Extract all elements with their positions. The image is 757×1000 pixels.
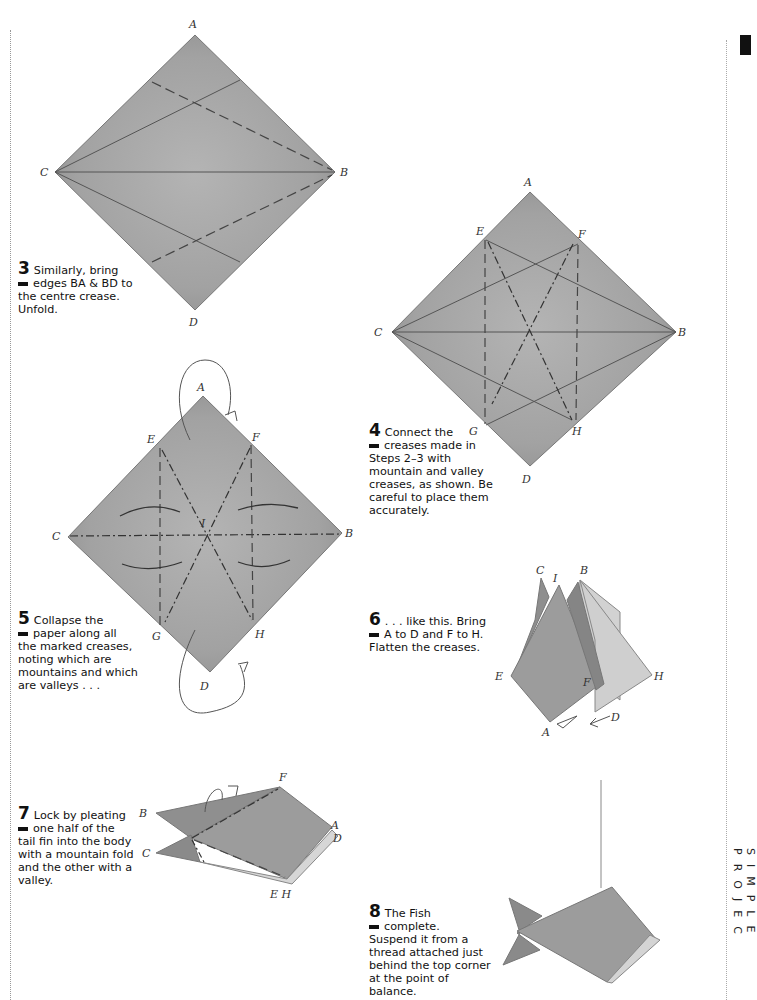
label-d: D — [610, 711, 620, 724]
label-c: C — [536, 564, 545, 577]
step-bar-icon — [18, 827, 28, 831]
step-7-caption: 7Lock by pleating one half of the tail f… — [18, 807, 143, 887]
step-number: 5 — [18, 608, 30, 628]
label-c: C — [40, 166, 49, 179]
label-d: D — [332, 832, 342, 845]
label-e: E — [494, 670, 503, 683]
step-bar-icon — [369, 444, 379, 448]
label-d: D — [188, 316, 198, 329]
label-a: A — [523, 176, 532, 189]
label-h: H — [653, 670, 664, 683]
label-b: B — [344, 527, 353, 540]
label-h: H — [254, 628, 265, 641]
label-e-h: E H — [269, 888, 292, 901]
step-number: 3 — [18, 258, 30, 278]
step-bar-icon — [18, 282, 28, 286]
step-4-caption: 4Connect the creases made in Steps 2–3 w… — [369, 424, 494, 517]
label-d: D — [521, 473, 531, 486]
step-number: 4 — [369, 420, 381, 440]
label-a: A — [188, 18, 197, 31]
step-number: 7 — [18, 803, 30, 823]
label-c: C — [142, 847, 151, 860]
label-f: F — [582, 676, 591, 689]
step-3-caption: 3Similarly, bring edges BA & BD to the c… — [18, 262, 148, 316]
step-bar-icon — [369, 633, 379, 637]
label-i: I — [200, 517, 206, 530]
label-f: F — [278, 771, 287, 784]
label-a: A — [196, 381, 205, 394]
step-7-diagram: B C F A D E H — [138, 771, 342, 901]
label-c: C — [374, 326, 383, 339]
step-8-caption: 8The Fish complete. Suspend it from a th… — [369, 905, 491, 998]
step-number: 6 — [369, 609, 381, 629]
label-a: A — [541, 726, 550, 739]
label-e: E — [475, 225, 484, 238]
step-bar-icon — [18, 632, 28, 636]
step-5-caption: 5Collapse the paper along all the marked… — [18, 612, 143, 692]
label-d: D — [199, 680, 209, 693]
label-f: F — [251, 431, 260, 444]
label-a: A — [330, 819, 339, 832]
step-6-caption: 6. . . like this. Bring A to D and F to … — [369, 613, 499, 654]
label-i: I — [552, 572, 558, 585]
step-bar-icon — [369, 925, 379, 929]
label-e: E — [146, 433, 155, 446]
step-6-diagram: C I B E F H A D — [494, 564, 664, 739]
label-h: H — [571, 425, 582, 438]
label-c: C — [52, 530, 61, 543]
label-f: F — [577, 228, 586, 241]
label-b: B — [579, 564, 588, 577]
step-8-diagram — [503, 780, 660, 983]
label-g: G — [152, 630, 161, 643]
step-number: 8 — [369, 901, 381, 921]
label-b: B — [339, 166, 348, 179]
label-b: B — [677, 326, 686, 339]
